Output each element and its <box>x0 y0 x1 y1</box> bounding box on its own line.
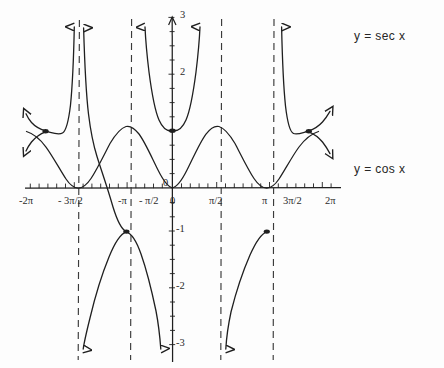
asymptote--pi-2 <box>131 19 132 360</box>
x-tick-label--pi: -π <box>118 196 127 207</box>
sec-branch--2pi-left <box>26 114 46 131</box>
sec-branch--2pi-right <box>46 27 75 134</box>
vertex--pi <box>123 229 129 233</box>
x-tick-label--pi-2: - π/2 <box>139 196 159 207</box>
sec-lower-branch--pi <box>83 232 161 349</box>
x-tick-label--2pi: -2π <box>19 196 33 207</box>
vertex-0 <box>169 129 176 133</box>
y-tick-label-3: 3 <box>180 10 185 21</box>
cos-function-label: y = cos x <box>354 163 405 175</box>
sec-branch-2pi-up-right <box>309 111 330 130</box>
x-tick-label-2pi: 2π <box>325 196 336 207</box>
y-tick-label-0: 0 <box>163 178 168 189</box>
y-tick-label--3: -3 <box>176 338 185 349</box>
vertex-markers <box>43 129 312 234</box>
sec-branch-pi <box>226 232 267 349</box>
asymptote--3pi-2 <box>78 20 79 360</box>
sec-branch--2pi-down-left <box>26 132 46 151</box>
vertex-pi <box>264 229 270 233</box>
asymptote-3pi-2 <box>273 19 274 360</box>
sec-branch-2pi <box>282 27 330 154</box>
sec-arm-from-3pi-2 <box>282 27 309 134</box>
vertex-2pi <box>306 129 312 133</box>
x-tick-label--3pi-2: - 3π/2 <box>58 196 83 207</box>
sec-function-label: y = sec x <box>354 30 405 42</box>
sec-cos-graph <box>0 0 444 368</box>
x-tick-label-pi-2: π/2 <box>209 196 222 207</box>
y-tick-label-2: 2 <box>180 67 185 78</box>
x-tick-label-0: 0 <box>170 196 175 207</box>
x-axis <box>25 188 341 189</box>
y-tick-label--1: -1 <box>176 224 185 235</box>
x-tick-label-pi: π <box>262 196 267 207</box>
x-tick-label-3pi-2: 3π/2 <box>283 196 302 207</box>
vertex--2pi <box>43 129 49 133</box>
asymptote-pi-2 <box>221 19 222 360</box>
y-tick-label--2: -2 <box>176 281 185 292</box>
